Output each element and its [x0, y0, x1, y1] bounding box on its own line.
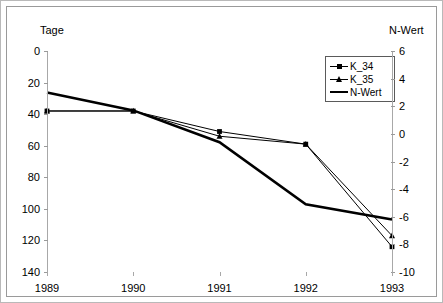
left-axis-label: 100: [7, 203, 40, 215]
right-axis-label: -10: [399, 266, 415, 278]
right-axis-label: -8: [399, 238, 409, 250]
right-axis-title: N-Wert: [389, 24, 424, 36]
legend-label-k35: K_35: [350, 74, 373, 85]
x-axis-tick: [392, 272, 393, 276]
x-axis-tick: [133, 272, 134, 276]
left-axis-tick: [44, 146, 48, 147]
left-axis-label: 0: [7, 45, 40, 57]
left-axis-line: [47, 51, 48, 272]
left-axis-label: 140: [7, 266, 40, 278]
right-axis-label: 0: [399, 128, 405, 140]
left-axis-label: 120: [7, 234, 40, 246]
chart-inner-frame: Tage N-Wert K_34 K_35 N-We: [6, 6, 437, 297]
left-axis-title: Tage: [40, 24, 64, 36]
right-axis-tick: [391, 162, 395, 163]
x-axis-label: 1991: [207, 282, 231, 294]
x-axis-tick: [220, 272, 221, 276]
right-axis-tick: [391, 51, 395, 52]
line-marker-icon: [330, 87, 348, 98]
legend-item-k34: K_34: [330, 60, 390, 73]
right-axis-label: 6: [399, 45, 405, 57]
right-axis-tick: [391, 79, 395, 80]
series-k-35: [44, 108, 395, 239]
left-axis-label: 80: [7, 171, 40, 183]
right-axis-label: 2: [399, 100, 405, 112]
series-n-wert: [47, 92, 392, 219]
left-axis-tick: [44, 177, 48, 178]
right-axis-tick: [391, 244, 395, 245]
legend-label-nwert: N-Wert: [350, 87, 381, 98]
left-axis-label: 20: [7, 77, 40, 89]
right-axis-tick: [391, 106, 395, 107]
x-axis-label: 1990: [121, 282, 145, 294]
x-axis-label: 1992: [294, 282, 318, 294]
left-axis-label: 60: [7, 140, 40, 152]
left-axis-tick: [44, 209, 48, 210]
right-axis-tick: [391, 189, 395, 190]
right-axis-tick: [391, 217, 395, 218]
legend-item-nwert: N-Wert: [330, 86, 390, 99]
x-axis-label: 1989: [35, 282, 59, 294]
legend-item-k35: K_35: [330, 73, 390, 86]
right-axis-label: -4: [399, 183, 409, 195]
left-axis-label: 40: [7, 108, 40, 120]
right-axis-label: 4: [399, 73, 405, 85]
x-axis-label: 1993: [380, 282, 404, 294]
triangle-marker-icon: [330, 74, 348, 85]
x-axis-tick: [306, 272, 307, 276]
left-axis-tick: [44, 51, 48, 52]
left-axis-tick: [44, 114, 48, 115]
legend-label-k34: K_34: [350, 61, 373, 72]
chart-legend: K_34 K_35 N-Wert: [325, 56, 395, 102]
left-axis-tick: [44, 240, 48, 241]
right-axis-label: -6: [399, 211, 409, 223]
square-marker-icon: [330, 61, 348, 72]
right-axis-tick: [391, 134, 395, 135]
series-k-34: [45, 109, 395, 250]
x-axis-tick: [47, 272, 48, 276]
right-axis-label: -2: [399, 156, 409, 168]
chart-outer-frame: Tage N-Wert K_34 K_35 N-We: [0, 0, 443, 303]
left-axis-tick: [44, 83, 48, 84]
